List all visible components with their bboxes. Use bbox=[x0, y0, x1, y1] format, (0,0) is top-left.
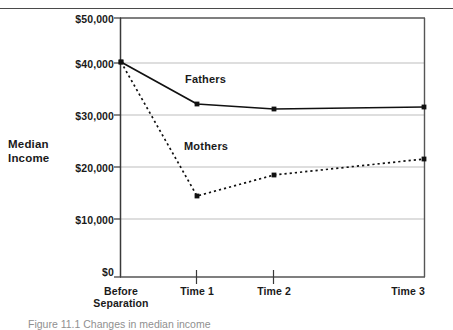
x-tick-label-time-3-text: Time 3 bbox=[391, 285, 425, 297]
series-fathers bbox=[119, 60, 427, 112]
x-tick-label-before-separation-line1: Before bbox=[104, 285, 138, 297]
figure-caption: Figure 11.1 Changes in median income bbox=[28, 318, 211, 330]
x-tick-label-before-separation: Before Separation bbox=[81, 285, 161, 309]
x-tick-label-time-2-text: Time 2 bbox=[257, 285, 291, 297]
x-tick-label-time-1: Time 1 bbox=[157, 285, 237, 297]
x-tick-label-time-2: Time 2 bbox=[234, 285, 314, 297]
series-mothers bbox=[119, 60, 427, 199]
plot-frame bbox=[120, 18, 425, 277]
x-tick-label-before-separation-line2: Separation bbox=[81, 297, 161, 309]
series-label-fathers: Fathers bbox=[185, 73, 226, 85]
series-label-mothers: Mothers bbox=[184, 140, 228, 152]
x-tick-label-time-3: Time 3 bbox=[368, 285, 448, 297]
x-tick-label-time-1-text: Time 1 bbox=[180, 285, 214, 297]
